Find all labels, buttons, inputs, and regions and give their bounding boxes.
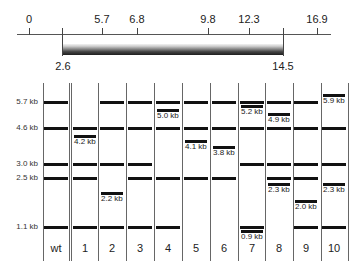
lane-label: 3 xyxy=(137,242,143,254)
gel-band xyxy=(44,101,68,104)
lane-label: wt xyxy=(51,242,62,254)
size-marker-label: 3.0 kb xyxy=(0,159,38,168)
gel-band xyxy=(240,101,264,104)
novel-band-label: 4.1 kb xyxy=(185,142,207,151)
size-marker-label: 5.7 kb xyxy=(0,97,38,106)
lane-label: 7 xyxy=(249,242,255,254)
map-tick-label: 9.8 xyxy=(200,13,215,25)
novel-band-label: 4.2 kb xyxy=(74,137,96,146)
insert-start-tick xyxy=(62,28,63,56)
gel-band xyxy=(212,101,236,104)
map-tick-label: 16.9 xyxy=(306,13,327,25)
gel-band xyxy=(73,163,97,166)
gel-band xyxy=(184,127,208,130)
novel-band-label: 2.3 kb xyxy=(323,185,345,194)
gel-band xyxy=(100,226,124,229)
gel-band xyxy=(294,226,318,229)
insert-fragment-bar xyxy=(62,44,283,55)
gel-band xyxy=(156,226,180,229)
lane-label: 9 xyxy=(303,242,309,254)
novel-band-label: 2.0 kb xyxy=(295,202,317,211)
gel-band xyxy=(128,226,152,229)
gel-band xyxy=(156,127,180,130)
insert-end-label: 14.5 xyxy=(272,60,293,72)
gel-band xyxy=(184,177,208,180)
lane-divider xyxy=(265,83,266,261)
lane-label: 1 xyxy=(82,242,88,254)
gel-band xyxy=(44,127,68,130)
gel-band xyxy=(128,127,152,130)
gel-band xyxy=(294,177,318,180)
lane-divider xyxy=(126,83,127,261)
gel-band xyxy=(322,163,346,166)
lane-label: 10 xyxy=(328,242,340,254)
map-tick-label: 12.3 xyxy=(238,13,259,25)
lane-divider xyxy=(43,83,44,261)
lane-divider xyxy=(69,83,70,261)
gel-band xyxy=(267,127,291,130)
lane-label: 8 xyxy=(276,242,282,254)
map-tick xyxy=(137,28,138,35)
lane-divider xyxy=(321,83,322,261)
novel-band-label: 2.2 kb xyxy=(101,194,123,203)
gel-band xyxy=(73,226,97,229)
lane-divider xyxy=(210,83,211,261)
gel-band xyxy=(240,163,264,166)
novel-band-label: 5.2 kb xyxy=(241,107,263,116)
novel-band-label: 0.9 kb xyxy=(241,232,263,241)
novel-band-label: 2.3 kb xyxy=(268,185,290,194)
lane-label: 6 xyxy=(221,242,227,254)
gel-band xyxy=(44,177,68,180)
lane-divider xyxy=(348,83,349,261)
insert-end-tick xyxy=(283,28,284,56)
map-tick xyxy=(29,28,30,35)
gel-band xyxy=(100,127,124,130)
gel-band xyxy=(322,226,346,229)
map-tick-label: 6.8 xyxy=(129,13,144,25)
lane-divider xyxy=(238,83,239,261)
lane-divider xyxy=(293,83,294,261)
lane-label: 4 xyxy=(165,242,171,254)
gel-band xyxy=(156,177,180,180)
lane-divider xyxy=(98,83,99,261)
gel-band xyxy=(44,163,68,166)
gel-band xyxy=(128,101,152,104)
map-tick xyxy=(249,28,250,35)
novel-band-label: 3.8 kb xyxy=(213,148,235,157)
gel-band xyxy=(44,226,68,229)
lane-divider xyxy=(71,83,72,261)
gel-band xyxy=(184,101,208,104)
gel-band xyxy=(322,127,346,130)
gel-band xyxy=(128,163,152,166)
insert-start-label: 2.6 xyxy=(55,60,70,72)
gel-band xyxy=(156,101,180,104)
gel-band xyxy=(240,226,264,229)
gel-band xyxy=(100,101,124,104)
gel-band xyxy=(240,127,264,130)
novel-band-label: 5.0 kb xyxy=(157,111,179,120)
gel-band xyxy=(212,177,236,180)
map-tick xyxy=(102,28,103,35)
gel-band xyxy=(100,163,124,166)
gel-band xyxy=(212,127,236,130)
gel-band xyxy=(294,127,318,130)
map-tick-label: 5.7 xyxy=(94,13,109,25)
gel-band xyxy=(267,177,291,180)
gel-band xyxy=(294,163,318,166)
size-marker-label: 1.1 kb xyxy=(0,222,38,231)
map-tick-label: 0 xyxy=(26,13,32,25)
map-tick xyxy=(317,28,318,35)
size-marker-label: 4.6 kb xyxy=(0,123,38,132)
gel-band xyxy=(294,101,318,104)
lane-label: 2 xyxy=(109,242,115,254)
gel-band xyxy=(73,177,97,180)
map-tick xyxy=(208,28,209,35)
size-marker-label: 2.5 kb xyxy=(0,173,38,182)
gel-band xyxy=(267,101,291,104)
lane-divider xyxy=(182,83,183,261)
lane-label: 5 xyxy=(193,242,199,254)
lane-divider xyxy=(154,83,155,261)
novel-band-label: 5.9 kb xyxy=(323,96,345,105)
novel-band-label: 4.9 kb xyxy=(268,115,290,124)
gel-band xyxy=(267,163,291,166)
